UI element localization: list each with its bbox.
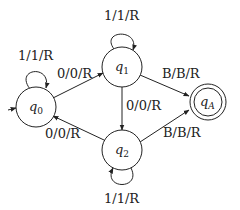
edge-label-q1-q1: 1/1/R — [104, 8, 140, 23]
edge-label-q1-q2: 0/0/R — [126, 98, 162, 113]
edge-q2-q0: 0/0/R — [45, 116, 104, 141]
edge-q0-q0: 1/1/R — [18, 48, 54, 89]
edge-label-q0-q0: 1/1/R — [18, 48, 54, 63]
edge-q2-qA: B/B/R — [140, 110, 202, 142]
edge-label-q1-qA: B/B/R — [162, 66, 201, 81]
edge-q0-q1: 0/0/R — [53, 66, 103, 98]
edge-label-q2-qA: B/B/R — [163, 125, 202, 140]
state-q2: q2 — [102, 130, 142, 170]
edge-q1-qA: B/B/R — [140, 66, 201, 96]
state-q0: q0 — [16, 87, 56, 127]
edge-label-q0-q1: 0/0/R — [57, 66, 93, 81]
edge-label-q2-q0: 0/0/R — [45, 126, 81, 141]
state-qA-accept: qA — [190, 84, 226, 120]
edge-q1-q2: 0/0/R — [122, 87, 162, 130]
start-arrow — [8, 108, 16, 110]
state-q1: q1 — [102, 47, 142, 87]
edge-q2-q2: 1/1/R — [104, 168, 140, 206]
edge-label-q2-q2: 1/1/R — [104, 191, 140, 206]
edge-q1-q1: 1/1/R — [104, 8, 140, 50]
state-diagram: 1/1/R 0/0/R 1/1/R 0/0/R B/B/R 0/0/R 1/1/… — [0, 0, 240, 210]
